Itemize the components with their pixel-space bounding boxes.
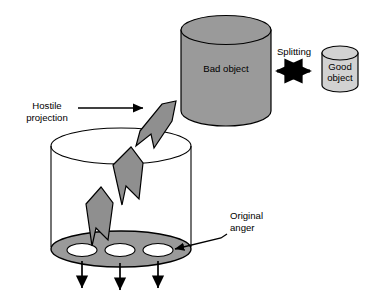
bolt-middle-shape xyxy=(113,147,143,205)
bad-object-label: Bad object xyxy=(203,63,249,74)
good-object-cylinder: Good object xyxy=(322,46,358,92)
bad-object-top-ellipse xyxy=(181,16,271,45)
projection-bolt-segment-middle xyxy=(113,147,143,205)
base-hole-3 xyxy=(143,244,173,257)
splitting-double-arrow: Splitting xyxy=(277,46,311,71)
original-label-line1: Original xyxy=(230,210,263,221)
diagram-root: Bad object Splitting Good object xyxy=(0,0,375,301)
good-object-top-ellipse xyxy=(322,46,358,60)
good-object-label-line2: object xyxy=(327,72,353,83)
hostile-label-line1: Hostile xyxy=(32,100,61,111)
good-object-label-line1: Good xyxy=(328,61,351,72)
original-label-line2: anger xyxy=(230,222,255,233)
hostile-projection-annotation: Hostile projection xyxy=(26,100,143,123)
bad-object-cylinder: Bad object xyxy=(181,16,271,127)
diagram-canvas: Bad object Splitting Good object xyxy=(0,0,375,301)
base-hole-2 xyxy=(105,244,135,257)
hostile-label-line2: projection xyxy=(26,112,68,123)
container-base-ellipse xyxy=(51,231,191,267)
splitting-label: Splitting xyxy=(277,46,311,57)
